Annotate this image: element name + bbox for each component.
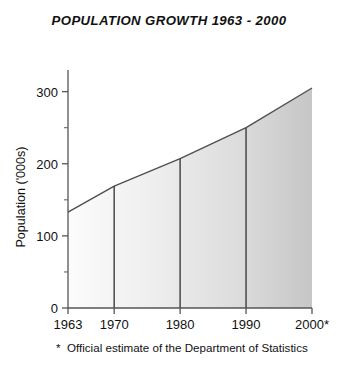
x-axis-ticks: [68, 308, 312, 314]
footnote-text: Official estimate of the Department of S…: [56, 340, 318, 356]
y-tick-label-300: 300: [8, 84, 58, 99]
footnote-marker: *: [56, 340, 61, 356]
y-axis-title: Population ('000s): [14, 132, 28, 262]
population-area-fill: [68, 88, 312, 308]
population-growth-chart-figure: POPULATION GROWTH 1963 - 2000 0100200300…: [0, 0, 338, 386]
x-tick-label-1980: 1980: [166, 317, 195, 332]
chart-footnote: * Official estimate of the Department of…: [56, 340, 318, 356]
x-tick-label-1970: 1970: [100, 317, 129, 332]
y-tick-label-0: 0: [8, 301, 58, 316]
x-tick-label-1990: 1990: [232, 317, 261, 332]
x-tick-label-1963: 1963: [54, 317, 83, 332]
x-tick-label-2000: 2000*: [295, 317, 329, 332]
